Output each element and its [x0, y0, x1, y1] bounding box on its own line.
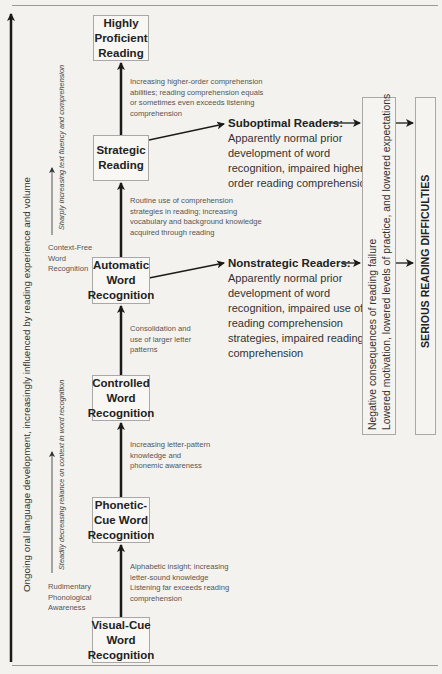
reader-desc-line: Apparently normal prior	[228, 131, 372, 146]
nonstrategic-readers-title: Nonstrategic Readers:	[228, 256, 364, 271]
stage-automatic: Automatic Word Recognition	[92, 257, 150, 304]
reader-desc-line: order reading comprehension	[228, 176, 372, 191]
context-free-line: Context-Free	[48, 243, 92, 254]
reader-desc-line: recognition, impaired use of	[228, 301, 364, 316]
reader-desc-line: development of word	[228, 286, 364, 301]
reader-desc-line: Apparently normal prior	[228, 271, 364, 286]
consequences-text-1: Negative consequences of reading failure	[367, 239, 378, 430]
transition-note-controlled: Increasing letter-pattern knowledge and …	[130, 440, 210, 472]
note-line: abilities; reading comprehension equals	[130, 88, 263, 99]
nonstrategic-readers: Nonstrategic Readers: Apparently normal …	[228, 256, 364, 361]
consequences-line-2: Lowered motivation, lowered levels of pr…	[380, 94, 393, 430]
note-line: Listening far exceeds reading	[130, 583, 229, 594]
context-free-line: Recognition	[48, 264, 92, 275]
transition-note-strategic: Routine use of comprehension strategies …	[130, 196, 262, 238]
rudimentary-line: Awareness	[48, 603, 92, 614]
context-free-label: Context-Free Word Recognition	[48, 243, 92, 275]
note-line: strategies in reading; increasing	[130, 207, 262, 218]
suboptimal-readers: Suboptimal Readers: Apparently normal pr…	[228, 116, 372, 191]
note-line: vocabulary and background knowledge	[130, 217, 262, 228]
stage-controlled: Controlled Word Recognition	[92, 375, 150, 421]
main-axis-text: Ongoing oral language development, incre…	[21, 177, 32, 592]
note-line: patterns	[130, 345, 191, 356]
note-line: Increasing higher-order comprehension	[130, 77, 263, 88]
note-line: Routine use of comprehension	[130, 196, 262, 207]
stage-phonetic-cue: Phonetic- Cue Word Recognition	[92, 497, 150, 543]
lower-axis-label: Steadily decreasing reliance on context …	[57, 380, 66, 570]
reader-desc-line: comprehension	[228, 346, 364, 361]
note-line: or sometimes even exceeds listening	[130, 98, 263, 109]
note-line: letter-sound knowledge	[130, 573, 229, 584]
context-free-line: Word	[48, 254, 92, 265]
note-line: phonemic awareness	[130, 461, 210, 472]
note-line: Consolidation and	[130, 324, 191, 335]
reader-desc-line: development of word	[228, 146, 372, 161]
note-line: Alphabetic insight; increasing	[130, 562, 229, 573]
upper-axis-text: Sharply increasing text fluency and comp…	[57, 65, 66, 230]
note-line: use of larger letter	[130, 335, 191, 346]
stage-visual-cue: Visual-Cue Word Recognition	[92, 617, 150, 663]
reader-desc-line: recognition, impaired higher-	[228, 161, 372, 176]
reader-desc-line: strategies, impaired reading	[228, 331, 364, 346]
main-axis-label: Ongoing oral language development, incre…	[21, 177, 32, 592]
reader-desc-line: reading comprehension	[228, 316, 364, 331]
lower-axis-text: Steadily decreasing reliance on context …	[57, 380, 66, 570]
outcome-label: SERIOUS READING DIFFICULTIES	[418, 175, 432, 348]
rudimentary-line: Phonological	[48, 593, 92, 604]
note-line: comprehension	[130, 594, 229, 605]
rudimentary-line: Rudimentary	[48, 582, 92, 593]
note-line: knowledge and	[130, 451, 210, 462]
transition-note-automatic: Consolidation and use of larger letter p…	[130, 324, 191, 356]
transition-note-highly-proficient: Increasing higher-order comprehension ab…	[130, 77, 263, 119]
upper-axis-label: Sharply increasing text fluency and comp…	[57, 65, 66, 230]
note-line: acquired through reading	[130, 228, 262, 239]
stage-highly-proficient: Highly Proficient Reading	[93, 15, 149, 61]
outcome-text: SERIOUS READING DIFFICULTIES	[419, 175, 431, 348]
transition-note-phonetic-cue: Alphabetic insight; increasing letter-so…	[130, 562, 229, 604]
consequences-text-2: Lowered motivation, lowered levels of pr…	[381, 94, 392, 430]
consequences-line-1: Negative consequences of reading failure	[366, 239, 379, 430]
suboptimal-readers-title: Suboptimal Readers:	[228, 116, 372, 131]
stage-strategic: Strategic Reading	[93, 135, 149, 181]
note-line: Increasing letter-pattern	[130, 440, 210, 451]
rudimentary-label: Rudimentary Phonological Awareness	[48, 582, 92, 614]
